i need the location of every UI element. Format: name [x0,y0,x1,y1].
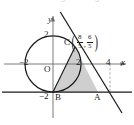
coordinate-comma: , [83,41,86,49]
y-axis-label: y [48,15,52,24]
fraction-denominator: 5 [78,43,82,50]
point-c-coordinate-annotation: ( 8 5 , 6 5 ) [70,34,100,50]
point-label-B: B [55,93,61,102]
fraction-numerator: 8 [78,34,82,41]
open-paren: ( [71,35,74,50]
fraction-denominator: 5 [88,43,92,50]
point-label-A: A [94,93,101,102]
shaded-triangle-ABC [53,47,98,92]
tick-label-x-4: 4 [106,58,111,67]
origin-label: O [44,65,51,74]
fraction-x-coordinate: 8 5 [76,34,83,50]
fraction-numerator: 6 [88,34,92,41]
close-paren: ) [95,35,98,50]
x-axis-label: x [121,58,125,67]
tick-label-x-2: 2 [76,58,81,67]
geometry-figure: 5 5 y x O 2 −2 2 4 −2 B A C [0,0,134,125]
tick-label-y-2: 2 [44,30,49,39]
fraction-y-coordinate: 6 5 [86,34,93,50]
tick-label-y-negative-2: −2 [39,92,49,101]
tick-label-x-negative-2: −2 [19,58,29,67]
